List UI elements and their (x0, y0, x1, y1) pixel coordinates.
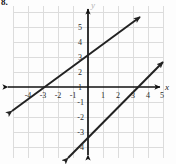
xtick-label-neg2: -2 (55, 91, 62, 100)
ytick-label-2: 2 (78, 68, 82, 77)
ytick-label-neg1: -1 (77, 98, 84, 107)
coordinate-plane-svg: -4 -3 -2 -1 1 2 3 4 5 5 4 3 2 1 -1 -2 -3… (0, 0, 176, 164)
ytick-label-3: 3 (78, 53, 82, 62)
ytick-label-neg3: -3 (77, 128, 84, 137)
axes (8, 9, 160, 155)
xtick-label-neg4: -4 (25, 91, 32, 100)
xtick-label-1: 1 (101, 91, 105, 100)
ytick-label-neg2: -2 (77, 113, 84, 122)
xtick-label-neg3: -3 (40, 91, 47, 100)
xtick-label-5: 5 (160, 91, 164, 100)
xtick-label-2: 2 (116, 91, 120, 100)
ytick-label-5: 5 (78, 23, 82, 32)
xtick-label-3: 3 (131, 91, 135, 100)
xtick-label-neg1: -1 (70, 91, 77, 100)
x-axis-label: x (164, 82, 169, 92)
ytick-label-1: 1 (78, 83, 82, 92)
graph-figure: 8. (0, 0, 176, 164)
ytick-label-neg4: -4 (77, 143, 84, 152)
xtick-label-4: 4 (146, 91, 150, 100)
y-axis-label: y (90, 0, 95, 10)
ytick-label-4: 4 (78, 38, 82, 47)
